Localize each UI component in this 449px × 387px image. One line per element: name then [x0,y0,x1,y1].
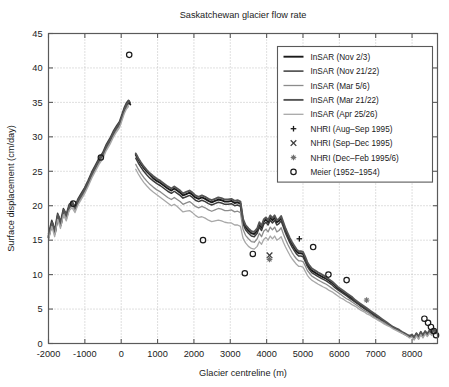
y-tick-label: 5 [37,304,42,314]
x-tick-label: 6000 [329,349,349,359]
x-tick-label: 3000 [220,349,240,359]
data-line-insar_apr_25_26 [136,169,436,340]
data-line-insar_mar_21_22 [49,101,130,236]
x-tick-label: 1000 [147,349,167,359]
legend-label-nhri_aug_sep: NHRI (Aug–Sep 1995) [311,125,393,134]
data-marker-nhri_dec_feb [364,297,370,303]
legend-label-insar_apr_25_26: InSAR (Apr 25/26) [311,110,378,119]
y-tick-label: 25 [32,167,42,177]
y-axis-label: Surface displacement (cm/day) [6,125,16,252]
legend-label-nhri_dec_feb: NHRI (Dec–Feb 1995/6) [311,154,400,163]
y-tick-label: 0 [37,339,42,349]
data-marker-meier [310,244,315,249]
x-tick-label: 5000 [293,349,313,359]
x-tick-label: 7000 [365,349,385,359]
legend-marker-nhri_dec_feb [291,155,297,161]
legend-label-insar_nov_2_3: InSAR (Nov 2/3) [311,53,371,62]
y-tick-label: 10 [32,270,42,280]
data-line-insar_nov_21_22 [49,100,131,234]
y-tick-label: 45 [32,29,42,39]
x-tick-label: -2000 [37,349,61,359]
y-tick-label: 30 [32,132,42,142]
x-tick-label: 2000 [184,349,204,359]
y-tick-label: 20 [32,201,42,211]
x-tick-label: 0 [119,349,124,359]
legend-label-insar_mar_5_6: InSAR (Mar 5/6) [311,82,370,91]
data-marker-meier [250,251,255,256]
data-marker-meier [344,277,349,282]
legend-label-insar_mar_21_22: InSAR (Mar 21/22) [311,96,380,105]
y-tick-label: 15 [32,235,42,245]
data-marker-nhri_aug_sep [297,236,303,242]
data-marker-meier [242,271,247,276]
legend-label-insar_nov_21_22: InSAR (Nov 21/22) [311,67,380,76]
y-tick-label: 40 [32,63,42,73]
chart-container: 051015202530354045-2000-1000010002000300… [0,0,449,387]
data-marker-meier [127,52,132,57]
chart-title: Saskatchewan glacier flow rate [180,10,307,20]
legend-label-meier: Meier (1952–1954) [311,168,380,177]
y-tick-label: 35 [32,98,42,108]
x-tick-label: -1000 [73,349,97,359]
x-tick-label: 4000 [256,349,276,359]
x-axis-label: Glacier centreline (m) [199,368,287,378]
glacier-flow-rate-chart: 051015202530354045-2000-1000010002000300… [0,0,449,387]
legend-label-nhri_sep_dec: NHRI (Sep–Dec 1995) [311,139,393,148]
x-tick-label: 8000 [402,349,422,359]
